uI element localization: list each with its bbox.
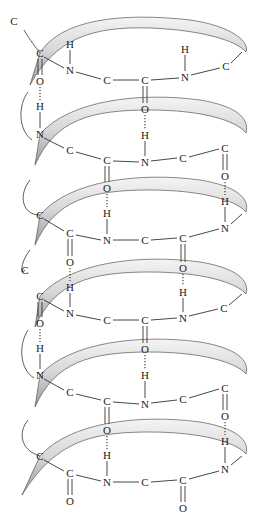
ribbon-turn-6 <box>22 419 247 495</box>
atom-o: O <box>103 424 111 436</box>
atom-o: O <box>36 317 44 329</box>
atom-c: C <box>179 152 186 164</box>
atom-c: C <box>103 74 110 86</box>
atom-o: O <box>141 343 149 355</box>
atom-n: N <box>36 369 44 381</box>
atom-h: H <box>221 435 229 447</box>
atom-h: H <box>103 449 111 461</box>
helix-svg: CCHNCCHNCOHONHCCNCCOOCHHCNCCNCOOHHCNCCNC… <box>0 0 265 526</box>
atom-c: C <box>66 386 73 398</box>
atom-c: C <box>36 209 43 221</box>
atom-c: C <box>36 290 43 302</box>
atom-c: C <box>66 467 73 479</box>
atom-c: C <box>220 302 227 314</box>
atom-c: C <box>179 393 186 405</box>
atom-c: C <box>10 15 17 27</box>
atom-n: N <box>103 476 111 488</box>
atom-n: N <box>36 128 44 140</box>
atom-c: C <box>221 142 228 154</box>
atom-c: C <box>141 234 148 246</box>
atom-c: C <box>221 382 228 394</box>
atom-h: H <box>36 100 44 112</box>
atom-c: C <box>103 395 110 407</box>
atom-c: C <box>103 154 110 166</box>
atom-n: N <box>66 307 74 319</box>
atom-c: C <box>141 74 148 86</box>
atom-c: C <box>141 314 148 326</box>
atom-o: O <box>221 410 229 422</box>
atom-h: H <box>179 286 187 298</box>
atom-o: O <box>221 170 229 182</box>
atom-c: C <box>66 227 73 239</box>
atom-n: N <box>66 64 74 76</box>
ribbon-turn-1 <box>30 17 247 85</box>
atom-o: O <box>36 75 44 87</box>
atom-n: N <box>179 312 187 324</box>
atom-o: O <box>66 256 74 268</box>
atom-h: H <box>66 38 74 50</box>
atom-n: N <box>181 71 189 83</box>
atom-h: H <box>181 43 189 55</box>
atom-c: C <box>179 474 186 486</box>
atom-n: N <box>103 234 111 246</box>
atom-n: N <box>221 463 229 475</box>
atom-o: O <box>179 502 187 514</box>
atom-h: H <box>103 207 111 219</box>
atom-h: H <box>141 369 149 381</box>
atom-c: C <box>21 264 28 276</box>
atom-o: O <box>141 103 149 115</box>
atom-c: C <box>36 450 43 462</box>
atom-n: N <box>141 398 149 410</box>
atom-n: N <box>221 222 229 234</box>
atom-c: C <box>222 60 229 72</box>
atom-n: N <box>141 156 149 168</box>
atom-h: H <box>36 342 44 354</box>
atom-c: C <box>179 232 186 244</box>
atom-h: H <box>221 195 229 207</box>
atom-c: C <box>36 47 43 59</box>
alpha-helix-diagram: CCHNCCHNCOHONHCCNCCOOCHHCNCCNCOOHHCNCCNC… <box>0 0 265 526</box>
atom-h: H <box>141 129 149 141</box>
atom-h: H <box>66 281 74 293</box>
atom-o: O <box>66 495 74 507</box>
ribbon-turns <box>22 17 247 495</box>
atom-c: C <box>103 314 110 326</box>
atom-o: O <box>179 262 187 274</box>
atom-c: C <box>141 476 148 488</box>
atom-o: O <box>103 182 111 194</box>
atom-c: C <box>66 144 73 156</box>
